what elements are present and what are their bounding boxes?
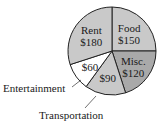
entertainment-callout-label: Entertainment: [3, 82, 65, 94]
slice-label-rent: Rent: [81, 24, 102, 36]
slice-value-misc: $120: [122, 67, 145, 79]
slice-value-transportation: $90: [99, 72, 116, 84]
entertainment-leader-line: [72, 80, 81, 87]
slice-label-misc: Misc.: [121, 55, 146, 67]
slice-value-rent: $180: [80, 36, 103, 48]
slice-value-entertainment: $60: [82, 61, 99, 73]
transportation-leader-line: [85, 96, 96, 108]
slice-label-food: Food: [118, 22, 141, 34]
slice-value-food: $150: [118, 34, 141, 46]
transportation-callout-label: Transportation: [39, 109, 104, 121]
pie-chart: Food$150Misc.$120$90$60Rent$180 Entertai…: [0, 0, 159, 123]
